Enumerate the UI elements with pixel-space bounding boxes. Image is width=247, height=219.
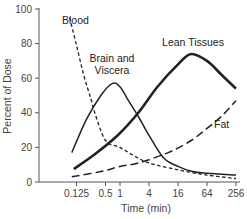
series-line-fat (72, 101, 236, 177)
x-axis-title: Time (min) (121, 202, 171, 214)
x-tick-label: 64 (201, 188, 213, 199)
series-labels: BloodBrain andVisceraLean TissuesFat (62, 14, 229, 130)
y-tick-label: 20 (21, 142, 33, 153)
x-tick-label: 0.5 (99, 188, 113, 199)
chart: 020406080100 0.1250.5141664256 Time (min… (0, 0, 247, 219)
series-label-brain-and-viscera: Brain andViscera (90, 52, 135, 76)
series-line-brain-and-viscera (72, 83, 236, 175)
y-tick-label: 40 (21, 107, 33, 118)
y-tick-label: 80 (21, 38, 33, 49)
x-tick-label: 16 (172, 188, 184, 199)
y-ticks: 020406080100 (15, 4, 39, 188)
x-tick-label: 0.125 (64, 188, 89, 199)
y-tick-label: 60 (21, 73, 33, 84)
y-tick-label: 0 (26, 177, 32, 188)
series-label-lean-tissues: Lean Tissues (162, 36, 224, 48)
series-label-blood: Blood (62, 14, 89, 26)
series-label-fat: Fat (214, 118, 229, 130)
x-tick-label: 1 (117, 188, 123, 199)
y-tick-label: 100 (15, 4, 32, 15)
y-axis-title: Percent of Dose (1, 58, 13, 133)
x-ticks: 0.1250.5141664256 (64, 182, 245, 199)
x-tick-label: 4 (146, 188, 152, 199)
x-tick-label: 256 (228, 188, 245, 199)
